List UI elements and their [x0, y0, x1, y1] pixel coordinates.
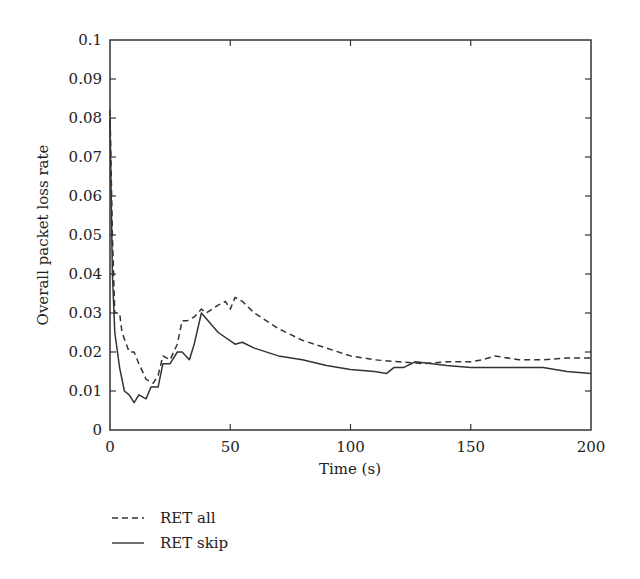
legend-label-ret-skip: RET skip	[160, 534, 228, 552]
y-tick-label: 0.1	[78, 31, 102, 49]
x-tick-label: 100	[336, 438, 365, 456]
y-axis-label: Overall packet loss rate	[34, 144, 52, 325]
y-tick-label: 0.08	[69, 109, 102, 127]
x-axis-label: Time (s)	[319, 460, 381, 478]
x-axis: 050100150200	[105, 40, 605, 456]
legend: RET all RET skip	[112, 509, 228, 552]
y-tick-label: 0.07	[69, 148, 102, 166]
x-tick-label: 0	[105, 438, 115, 456]
y-tick-label: 0.05	[69, 226, 102, 244]
y-tick-label: 0	[92, 421, 102, 439]
plot-area	[110, 40, 591, 430]
x-tick-label: 150	[456, 438, 485, 456]
y-tick-label: 0.06	[69, 187, 102, 205]
y-tick-label: 0.01	[69, 382, 102, 400]
y-tick-label: 0.03	[69, 304, 102, 322]
plot-border	[110, 40, 591, 430]
x-tick-label: 50	[221, 438, 240, 456]
series-ret-all	[110, 110, 591, 383]
line-chart: 00.010.020.030.040.050.060.070.080.090.1…	[0, 0, 640, 579]
x-tick-label: 200	[577, 438, 606, 456]
y-tick-label: 0.02	[69, 343, 102, 361]
y-tick-label: 0.04	[69, 265, 102, 283]
series-layer	[110, 110, 591, 403]
legend-item-ret-all: RET all	[112, 509, 216, 527]
legend-label-ret-all: RET all	[160, 509, 216, 527]
y-tick-label: 0.09	[69, 70, 102, 88]
legend-item-ret-skip: RET skip	[112, 534, 228, 552]
y-axis: 00.010.020.030.040.050.060.070.080.090.1	[69, 31, 591, 439]
